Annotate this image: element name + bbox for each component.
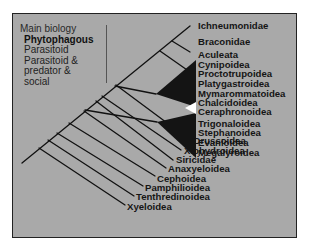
legend-line: social — [24, 77, 93, 88]
legend-divider — [106, 25, 107, 83]
branch-tenthredinoidea — [48, 140, 134, 196]
legend-title: Main biology — [20, 24, 93, 35]
branch-siricidae — [96, 101, 173, 160]
legend-line: predator & — [24, 66, 93, 77]
legend-item-parasitoid-predator-social: Parasitoid & predator & social — [20, 56, 93, 88]
branch-xyeloidea — [39, 148, 125, 205]
branch-aculeata — [160, 51, 190, 72]
legend-item-parasitoid: Parasitoid — [20, 45, 93, 56]
legend: Main biology Phytophagous Parasitoid Par… — [20, 24, 93, 87]
taxon-label: Ichneumonidae — [198, 21, 268, 31]
taxon-label: Braconidae — [198, 37, 250, 47]
branch-clade-a — [115, 86, 156, 94]
branch-pamphilioidea — [57, 133, 143, 186]
branch-braconidae — [172, 41, 190, 52]
taxon-label: Ceraphronoidea — [198, 107, 272, 117]
taxon-label: Xyeloidea — [127, 202, 172, 212]
clade-a-triangle — [156, 60, 196, 107]
